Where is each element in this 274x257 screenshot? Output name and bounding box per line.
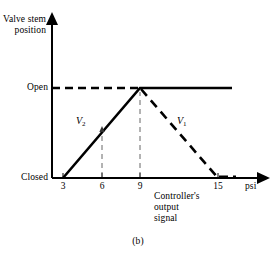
series-v2-path bbox=[63, 88, 232, 178]
x-axis-caption: Controller's output signal bbox=[154, 191, 254, 224]
series-label-v1-subscript: 1 bbox=[183, 120, 187, 128]
y-axis-title-line1: Valve stem bbox=[3, 14, 46, 24]
figure-panel-b: Valve stemposition Open Closed 3 6 9 15 … bbox=[0, 0, 274, 257]
series-label-v2: V2 bbox=[76, 115, 86, 126]
y-tick-label-closed: Closed bbox=[0, 172, 48, 183]
y-axis-title-line2: position bbox=[15, 25, 46, 35]
y-tick-label-open: Open bbox=[4, 82, 48, 93]
y-axis-title: Valve stemposition bbox=[0, 14, 46, 35]
series-v1-path bbox=[141, 89, 218, 178]
series-label-v2-subscript: 2 bbox=[82, 120, 86, 128]
series-label-v1: V1 bbox=[177, 115, 187, 126]
x-tick-label-3: 3 bbox=[53, 181, 73, 191]
x-axis-unit-label: psi bbox=[245, 181, 269, 192]
panel-caption: (b) bbox=[118, 236, 158, 247]
x-tick-label-6: 6 bbox=[92, 181, 112, 191]
x-tick-label-15: 15 bbox=[208, 181, 228, 191]
x-tick-label-9: 9 bbox=[130, 181, 150, 191]
